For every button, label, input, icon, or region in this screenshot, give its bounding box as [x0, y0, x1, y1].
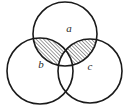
circle-c-label: c: [88, 60, 93, 72]
venn-diagram-svg: a b c: [0, 0, 130, 110]
circle-a-label: a: [66, 22, 72, 34]
venn-diagram-figure: a b c: [0, 0, 130, 110]
circle-b-label: b: [38, 58, 44, 70]
